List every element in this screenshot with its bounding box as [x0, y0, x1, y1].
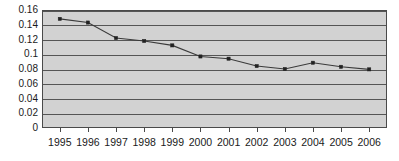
data-point [311, 61, 314, 64]
x-tick-label: 1996 [76, 136, 99, 148]
y-tick-label: 0.06 [0, 79, 38, 89]
data-point [199, 55, 202, 58]
data-point [171, 44, 174, 47]
x-tick-mark [341, 128, 342, 132]
data-point [368, 68, 371, 71]
x-tick-mark [116, 128, 117, 132]
x-tick-mark [88, 128, 89, 132]
data-point [114, 36, 117, 39]
x-tick-mark [229, 128, 230, 132]
y-tick-label: 0.1 [0, 49, 38, 59]
x-tick-mark [369, 128, 370, 132]
y-tick-label: 0.14 [0, 20, 38, 30]
x-tick-label: 1998 [132, 136, 155, 148]
x-tick-mark [144, 128, 145, 132]
x-tick-label: 1995 [48, 136, 71, 148]
x-tick-label: 2004 [301, 136, 324, 148]
x-tick-mark [313, 128, 314, 132]
data-point [339, 65, 342, 68]
data-point [255, 64, 258, 67]
y-tick-label: 0.16 [0, 5, 38, 15]
x-tick-mark [200, 128, 201, 132]
x-tick-label: 2003 [273, 136, 296, 148]
series-line [60, 19, 369, 70]
x-tick-mark [257, 128, 258, 132]
y-tick-label: 0.02 [0, 108, 38, 118]
y-axis: 00.020.040.060.080.10.120.140.16 [0, 0, 38, 140]
x-tick-label: 2001 [217, 136, 240, 148]
x-tick-mark [172, 128, 173, 132]
x-tick-label: 1999 [161, 136, 184, 148]
y-tick-label: 0 [0, 123, 38, 133]
data-series [42, 10, 387, 128]
y-tick-label: 0.08 [0, 64, 38, 74]
x-axis: 1995199619971998199920002001200220032004… [42, 136, 387, 154]
x-tick-label: 2000 [189, 136, 212, 148]
data-point [227, 57, 230, 60]
x-tick-label: 1997 [104, 136, 127, 148]
data-point [143, 39, 146, 42]
series-markers [58, 17, 371, 71]
x-tick-label: 2006 [358, 136, 381, 148]
x-tick-mark [60, 128, 61, 132]
y-tick-label: 0.04 [0, 94, 38, 104]
y-tick-label: 0.12 [0, 35, 38, 45]
data-point [58, 17, 61, 20]
data-point [283, 67, 286, 70]
x-tick-mark [285, 128, 286, 132]
x-tick-label: 2002 [245, 136, 268, 148]
line-chart: 00.020.040.060.080.10.120.140.16 1995199… [0, 0, 399, 161]
data-point [86, 21, 89, 24]
x-tick-label: 2005 [329, 136, 352, 148]
